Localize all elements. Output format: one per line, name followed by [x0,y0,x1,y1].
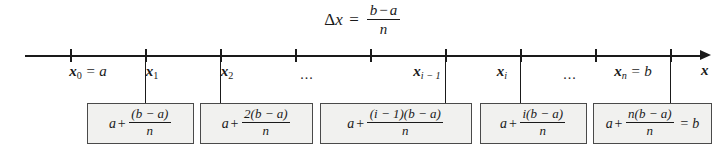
tick-label-subscript: 2 [228,70,233,81]
box-numerator: n(b − a) [626,107,674,123]
fraction-numerator: b−a [367,2,400,20]
tick-mark [670,49,672,62]
tick-label-base: x [614,63,622,79]
tick-label-base: x [69,63,77,79]
box-fraction: (i − 1)(b − a) n [367,107,443,138]
tick-mark [70,49,72,62]
numerator-a: a [390,2,398,18]
tick-label-xi: xi [497,63,507,81]
equals-sign: = [347,10,361,29]
box-fraction: 2(b − a) n [242,107,290,138]
tick-label-subscript: i − 1 [421,70,441,81]
number-line [25,55,703,57]
tick-mark [370,49,372,62]
box-lead-term: a [500,116,507,132]
tick-mark [145,49,147,62]
box-denominator: n [242,123,290,138]
axis-arrowhead-icon [700,50,711,60]
connector-xn [670,62,671,103]
fraction-denominator: n [367,20,400,37]
axis-ellipsis-left: ... [300,67,314,83]
box-fraction: n(b − a) n [626,107,674,138]
formula-box-xn: a+ n(b − a) n = b [593,103,712,144]
formula-box-x2: a+ 2(b − a) n [200,103,313,144]
delta-x-formula: Δx = b−a n [0,3,726,38]
tick-label-xi-minus-1: xi − 1 [413,63,440,81]
box-denominator: n [367,123,443,138]
tick-label-base: x [221,63,229,79]
box-fraction: i(b − a) n [520,107,565,138]
box-numerator: (i − 1)(b − a) [367,107,443,123]
tick-mark [220,49,222,62]
plus-sign: + [354,116,366,132]
tick-label-x0: x0 = a [69,63,107,81]
connector-x2 [220,62,221,103]
plus-sign: + [613,116,625,132]
box-numerator: i(b − a) [520,107,565,123]
tick-label-subscript: i [504,70,507,81]
delta-x-fraction: b−a n [367,2,400,37]
tick-mark [295,49,297,62]
box-fraction: (b − a) n [129,107,171,138]
tick-mark [445,49,447,62]
formula-box-xi: a+ i(b − a) n [480,103,587,144]
tick-label-base: x [497,63,505,79]
delta-x-variable: x [335,10,343,29]
connector-xi-1 [445,62,446,103]
plus-sign: + [116,116,128,132]
box-denominator: n [520,123,565,138]
minus-sign: − [377,2,389,18]
plus-sign: + [229,116,241,132]
box-lead-term: a [109,116,116,132]
connector-x1 [145,62,146,103]
box-lead-term: a [222,116,229,132]
tick-label-subscript: 1 [153,70,158,81]
tick-label-base: x [146,63,154,79]
axis-label-x: x [701,62,709,79]
box-denominator: n [129,123,171,138]
tick-mark [595,49,597,62]
tick-label-x2: x2 [221,63,234,81]
box-denominator: n [626,123,674,138]
formula-box-x1: a+ (b − a) n [87,103,194,144]
axis-ellipsis-right: ... [563,67,577,83]
box-lead-term: a [347,116,354,132]
box-numerator: 2(b − a) [242,107,290,123]
tick-label-xn: xn = b [614,63,652,81]
connector-xi [520,62,521,103]
tick-mark [520,49,522,62]
tick-label-x1: x1 [146,63,159,81]
delta-symbol: Δ [324,10,335,29]
box-lead-term: a [606,116,613,132]
box-trailing-equals-b: = b [679,116,699,132]
box-numerator: (b − a) [129,107,171,123]
tick-label-suffix: = b [627,63,652,79]
formula-box-xi-minus-1: a+ (i − 1)(b − a) n [320,103,472,144]
tick-label-suffix: = a [82,63,107,79]
partition-diagram: Δx = b−a n x x0 = a x1 x2 xi − 1 xi xn =… [0,0,726,157]
plus-sign: + [507,116,519,132]
tick-label-base: x [413,63,421,79]
